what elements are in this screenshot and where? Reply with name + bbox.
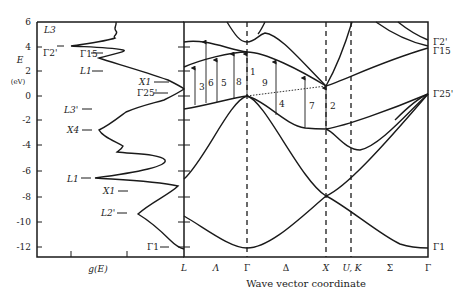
ytick-6: 6 bbox=[25, 17, 31, 27]
kpoint-Sigma: Σ bbox=[387, 263, 393, 273]
band-structure-figure: 6 4 2 0 -2 -4 -6 -8 -10 -12 E (eV) L3 Γ2… bbox=[0, 0, 460, 303]
unit-label: (eV) bbox=[11, 78, 26, 86]
transition-1: 1 bbox=[250, 67, 256, 77]
ytick-m8: -8 bbox=[22, 192, 31, 202]
transition-2: 2 bbox=[330, 101, 336, 111]
kpoint-Lambda: Λ bbox=[212, 263, 220, 273]
ytick-m6: -6 bbox=[22, 166, 31, 176]
dos-xlabel: g(E) bbox=[88, 264, 108, 274]
energy-label: E bbox=[16, 55, 24, 65]
energy-axis: 6 4 2 0 -2 -4 -6 -8 -10 -12 E (eV) bbox=[11, 17, 32, 252]
transition-5: 5 bbox=[221, 78, 227, 88]
dos-label-G2p: Γ2' bbox=[43, 48, 57, 58]
transition-9: 9 bbox=[262, 78, 268, 88]
right-label-G1: Γ1 bbox=[433, 242, 445, 252]
ytick-m4: -4 bbox=[22, 140, 31, 150]
dos-label-L3: L3 bbox=[43, 25, 56, 35]
dos-label-L1b: L1 bbox=[66, 174, 79, 184]
transition-arrows bbox=[195, 42, 326, 129]
dos-label-G15: Γ15 bbox=[80, 49, 98, 59]
ytick-m12: -12 bbox=[17, 242, 32, 252]
kpoint-Delta: Δ bbox=[283, 263, 290, 273]
kpoint-L: L bbox=[180, 263, 187, 273]
ytick-4: 4 bbox=[25, 42, 31, 52]
kpoint-X: X bbox=[322, 263, 330, 273]
band-curves bbox=[184, 22, 428, 248]
ytick-0: 0 bbox=[25, 91, 31, 101]
dos-label-X1b: X1 bbox=[102, 186, 115, 196]
dos-label-G25p: Γ25' bbox=[137, 88, 157, 98]
band-xlabel: Wave vector coordinate bbox=[246, 278, 366, 289]
ytick-2: 2 bbox=[25, 66, 31, 76]
dos-label-L1a: L1 bbox=[79, 66, 92, 76]
dos-label-X1a: X1 bbox=[138, 77, 151, 87]
dos-label-L2p: L2' bbox=[100, 208, 115, 218]
transition-7: 7 bbox=[309, 101, 315, 111]
transition-3: 3 bbox=[199, 82, 205, 92]
kpoint-Gamma: Γ bbox=[244, 263, 250, 273]
dos-label-L3p: L3' bbox=[63, 105, 78, 115]
right-label-G25p: Γ25' bbox=[433, 89, 453, 99]
transition-8: 8 bbox=[236, 77, 242, 87]
right-label-G15: Γ15 bbox=[433, 46, 451, 56]
band-panel: 3 6 5 8 1 9 4 7 2 Γ2' Γ15 Γ25' Γ1 L Λ Γ … bbox=[178, 22, 453, 289]
ytick-m10: -10 bbox=[17, 217, 32, 227]
transition-4: 4 bbox=[279, 99, 285, 109]
indirect-gap-dotted bbox=[247, 86, 326, 96]
dos-label-G1: Γ1 bbox=[147, 242, 159, 252]
dos-label-X4: X4 bbox=[66, 125, 79, 135]
dos-panel: L3 Γ2' Γ15 L1 X1 Γ25' L3' X4 L1 X1 L2' Γ… bbox=[37, 22, 184, 274]
ytick-m2: -2 bbox=[22, 115, 31, 125]
kpoint-Gamma-end: Γ bbox=[425, 263, 431, 273]
transition-6: 6 bbox=[208, 78, 214, 88]
kpoint-UK: U, K bbox=[342, 263, 362, 273]
